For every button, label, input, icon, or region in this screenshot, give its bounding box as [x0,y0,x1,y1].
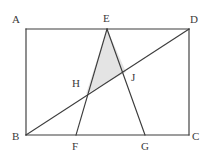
vertex-label-J: J [131,72,135,83]
segment-EG [107,29,145,135]
vertex-label-H: H [72,78,80,89]
shaded-triangle-EHJ [86,29,126,94]
vertex-label-A: A [12,14,20,25]
vertex-label-B: B [12,131,19,142]
geometry-figure: A B C D E F G H J [0,0,211,157]
vertex-label-C: C [192,131,199,142]
vertex-label-E: E [103,13,110,24]
vertex-label-F: F [72,141,78,152]
vertex-label-D: D [190,14,198,25]
vertex-label-G: G [141,141,149,152]
